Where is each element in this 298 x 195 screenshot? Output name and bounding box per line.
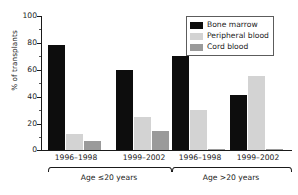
bar-peripheral-blood-g3: [190, 110, 207, 150]
legend-label-peripheral-blood: Peripheral blood: [207, 32, 269, 40]
bar-cord-blood-g1: [84, 141, 101, 150]
legend-item-peripheral-blood: Peripheral blood: [190, 31, 269, 41]
bar-cord-blood-g4: [266, 149, 283, 150]
y-tick-40: [37, 97, 41, 98]
bar-chart: % of transplants 100 80 60 40 20 0: [0, 0, 298, 195]
bar-bone-marrow-g2: [116, 70, 133, 150]
bar-peripheral-blood-g4: [248, 76, 265, 150]
legend-swatch-bone-marrow: [190, 22, 203, 29]
y-tick-70: [39, 56, 42, 57]
y-tick-30: [39, 110, 42, 111]
legend-swatch-peripheral-blood: [190, 33, 203, 40]
bar-bone-marrow-g4: [230, 95, 247, 150]
bar-peripheral-blood-g1: [66, 134, 83, 150]
legend: Bone marrow Peripheral blood Cord blood: [186, 16, 274, 56]
x-label-period-1: 1996–1998: [42, 153, 110, 162]
legend-label-cord-blood: Cord blood: [207, 43, 248, 51]
group-label-age-under-20: Age ≤20 years: [48, 173, 170, 182]
legend-item-cord-blood: Cord blood: [190, 42, 269, 52]
y-tick-100: [37, 16, 41, 17]
group-bracket-age-over-20: [172, 167, 292, 172]
bar-group-1: [48, 16, 104, 150]
y-tick-10: [39, 137, 42, 138]
y-tick-label-80: 80: [17, 39, 37, 47]
legend-label-bone-marrow: Bone marrow: [207, 21, 258, 29]
bar-peripheral-blood-g2: [134, 117, 151, 151]
bar-bone-marrow-g1: [48, 45, 65, 150]
y-tick-label-20: 20: [17, 120, 37, 128]
bar-group-2: [116, 16, 172, 150]
y-tick-label-0: 0: [17, 146, 37, 154]
y-tick-label-60: 60: [17, 66, 37, 74]
y-tick-60: [37, 70, 41, 71]
y-tick-0: [37, 150, 41, 151]
bar-bone-marrow-g3: [172, 56, 189, 150]
group-label-age-over-20: Age >20 years: [172, 173, 290, 182]
y-axis-tick-labels: 100 80 60 40 20 0: [17, 0, 37, 195]
bar-cord-blood-g3: [208, 149, 225, 150]
bar-cord-blood-g2: [152, 131, 169, 150]
group-bracket-age-under-20: [48, 167, 172, 172]
x-label-period-4: 1999–2002: [224, 153, 292, 162]
y-tick-20: [37, 124, 41, 125]
y-tick-label-100: 100: [17, 12, 37, 20]
y-tick-50: [39, 83, 42, 84]
y-tick-80: [37, 43, 41, 44]
x-axis-line: [41, 150, 292, 151]
y-tick-90: [39, 29, 42, 30]
legend-item-bone-marrow: Bone marrow: [190, 20, 269, 30]
y-tick-label-40: 40: [17, 93, 37, 101]
legend-swatch-cord-blood: [190, 44, 203, 51]
